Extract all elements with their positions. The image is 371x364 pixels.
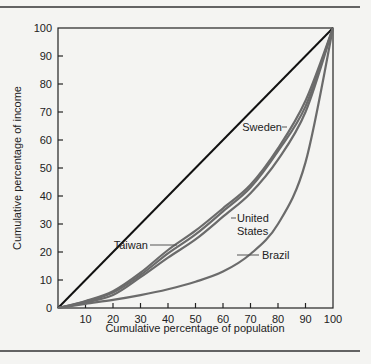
series-label-brazil: Brazil	[262, 249, 290, 261]
y-axis-title: Cumulative percentage of income	[11, 86, 23, 250]
y-tick-label: 100	[34, 22, 52, 34]
y-tick-label: 40	[40, 190, 52, 202]
series-label-united-states: United	[237, 212, 269, 224]
series-label-taiwan: Taiwan	[114, 239, 148, 251]
y-tick-label: 0	[46, 302, 52, 314]
y-tick-label: 70	[40, 106, 52, 118]
y-tick-label: 60	[40, 134, 52, 146]
series-labels: SwedenTaiwanUnitedStatesBrazil	[114, 121, 290, 261]
series-group	[58, 28, 333, 308]
y-tick-label: 20	[40, 246, 52, 258]
series-line-of-equality-line	[58, 28, 333, 308]
series-label-sweden: Sweden	[242, 121, 282, 133]
x-tick-label: 10	[79, 313, 91, 325]
lorenz-curve-chart: 0102030405060708090100 10203040506070809…	[0, 0, 371, 364]
x-tick-label: 90	[299, 313, 311, 325]
y-tick-label: 80	[40, 78, 52, 90]
y-tick-label: 30	[40, 218, 52, 230]
y-tick-label: 90	[40, 50, 52, 62]
x-tick-label: 100	[324, 313, 342, 325]
series-label-united-states: States	[237, 225, 269, 237]
y-tick-label: 50	[40, 162, 52, 174]
y-tick-label: 10	[40, 274, 52, 286]
x-axis-title: Cumulative percentage of population	[105, 322, 284, 334]
